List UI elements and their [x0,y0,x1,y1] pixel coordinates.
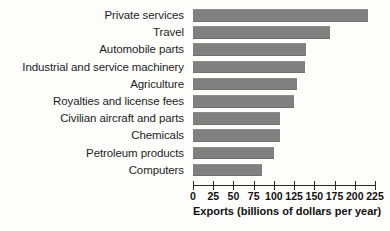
x-axis-tick [335,181,336,190]
bar-row [193,127,375,144]
bar [193,78,297,91]
category-label-row: Computers [0,162,188,179]
category-label: Petroleum products [86,145,184,162]
category-label-row: Chemicals [0,127,188,144]
category-label-row: Travel [0,24,188,41]
category-label: Civilian aircraft and parts [60,110,184,127]
category-label-column: Private servicesTravelAutomobile partsIn… [0,7,188,179]
category-label: Private services [104,7,184,24]
x-axis-tick-label: 150 [306,190,324,202]
x-axis-tick-label: 125 [285,190,303,202]
bar [193,147,274,160]
x-axis-tick [314,181,315,190]
bar-row [193,145,375,162]
x-axis-tick-label: 0 [190,190,196,202]
category-label-row: Industrial and service machinery [0,59,188,76]
bar [193,26,330,39]
x-axis-tick [254,181,255,190]
bar [193,43,306,56]
category-label: Royalties and license fees [53,93,184,110]
category-label-row: Agriculture [0,76,188,93]
bar [193,9,368,22]
x-axis-line [193,185,376,186]
x-axis-tick [233,181,234,190]
bar-row [193,7,375,24]
category-label: Agriculture [130,76,184,93]
x-axis-tick [274,181,275,190]
x-axis-title: Exports (billions of dollars per year) [193,205,376,217]
bar-row [193,162,375,179]
bar [193,129,280,142]
x-axis-tick-label: 225 [366,190,384,202]
x-axis-tick-label: 175 [326,190,344,202]
bar [193,112,280,125]
bar-row [193,110,375,127]
bar [193,61,305,74]
plot-area [193,7,375,179]
x-axis-tick [355,181,356,190]
x-axis-tick-label: 100 [265,190,283,202]
x-axis-tick [213,181,214,190]
x-axis-tick-label: 50 [228,190,240,202]
category-label: Computers [129,162,184,179]
category-label-row: Automobile parts [0,41,188,58]
category-label-row: Petroleum products [0,145,188,162]
x-axis-tick [193,181,194,190]
bar [193,95,294,108]
x-axis-tick-label: 25 [207,190,219,202]
bar-row [193,59,375,76]
chart-figure: Private servicesTravelAutomobile partsIn… [0,0,390,231]
bar-row [193,24,375,41]
bar-row [193,93,375,110]
category-label-row: Royalties and license fees [0,93,188,110]
category-label-row: Civilian aircraft and parts [0,110,188,127]
category-label: Automobile parts [99,41,184,58]
x-axis-tick [375,181,376,190]
category-label-row: Private services [0,7,188,24]
category-label: Chemicals [131,127,184,144]
category-label: Industrial and service machinery [22,59,184,76]
category-label: Travel [153,24,184,41]
x-axis-tick-label: 75 [248,190,260,202]
x-axis-tick [294,181,295,190]
bar-row [193,41,375,58]
bar-row [193,76,375,93]
bar [193,164,262,177]
x-axis-tick-label: 200 [346,190,364,202]
